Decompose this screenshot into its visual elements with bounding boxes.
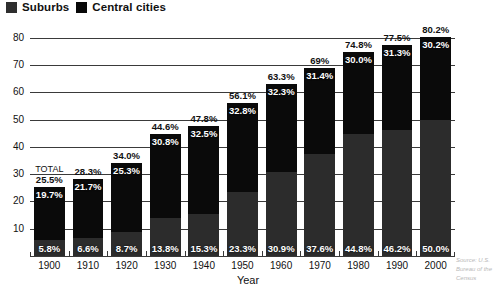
bar-segment-suburbs[interactable]: 37.6% xyxy=(304,154,335,256)
bar-segment-central-cities[interactable]: 21.7% xyxy=(73,179,104,238)
bar-total-label: 63.3% xyxy=(260,72,303,82)
bar-total-value: 25.5% xyxy=(36,174,63,185)
x-axis-tick xyxy=(223,251,224,257)
stacked-bar[interactable]: 23.3%32.8%56.1% xyxy=(227,103,258,256)
bar-segment-central-cities[interactable]: 30.2% xyxy=(420,37,451,119)
x-axis-tick-label: 1910 xyxy=(69,260,108,271)
bar-group[interactable]: 30.9%32.3%63.3% xyxy=(266,0,297,256)
chart-root: Suburbs Central cities 1020304050607080 … xyxy=(0,0,496,289)
bar-segment-suburbs[interactable]: 46.2% xyxy=(382,130,413,256)
bar-segment-value-label: 32.8% xyxy=(229,106,256,116)
y-axis-tick-label: 40 xyxy=(0,141,24,152)
bar-segment-central-cities[interactable]: 32.5% xyxy=(188,126,219,215)
x-axis-tick-label: 1970 xyxy=(300,260,339,271)
stacked-bar[interactable]: 8.7%25.3%34.0% xyxy=(111,163,142,256)
x-axis-tick-label: 1900 xyxy=(30,260,69,271)
bar-group[interactable]: 50.0%30.2%80.2% xyxy=(420,0,451,256)
y-axis-tick-label: 60 xyxy=(0,86,24,97)
x-axis-line xyxy=(30,256,455,257)
stacked-bar[interactable]: 46.2%31.3%77.5% xyxy=(382,45,413,256)
x-axis-tick-label: 1920 xyxy=(107,260,146,271)
x-axis-tick-label: 2000 xyxy=(416,260,455,271)
bar-total-value: 63.3% xyxy=(268,71,295,82)
bar-segment-central-cities[interactable]: 32.3% xyxy=(266,84,297,172)
bar-segment-value-label: 8.7% xyxy=(116,244,138,254)
bar-total-value: 47.8% xyxy=(190,113,217,124)
y-axis-tick-label: 30 xyxy=(0,168,24,179)
y-axis-tick-label: 20 xyxy=(0,195,24,206)
bar-segment-suburbs[interactable]: 15.3% xyxy=(188,214,219,256)
bar-group[interactable]: 46.2%31.3%77.5% xyxy=(382,0,413,256)
bar-total-value: 44.6% xyxy=(152,121,179,132)
x-axis-tick xyxy=(339,251,340,257)
bar-segment-central-cities[interactable]: 32.8% xyxy=(227,103,258,192)
bar-segment-value-label: 19.7% xyxy=(36,190,63,200)
bar-group[interactable]: 5.8%19.7%TOTAL25.5% xyxy=(34,0,65,256)
bar-total-value: 56.1% xyxy=(229,90,256,101)
bar-total-value: 28.3% xyxy=(74,166,101,177)
bar-segment-value-label: 15.3% xyxy=(190,244,217,254)
bar-segment-central-cities[interactable]: 25.3% xyxy=(111,163,142,232)
bar-group[interactable]: 6.6%21.7%28.3% xyxy=(73,0,104,256)
bar-total-label: 56.1% xyxy=(221,91,264,101)
bar-segment-central-cities[interactable]: 30.0% xyxy=(343,52,374,134)
x-axis-tick-label: 1950 xyxy=(223,260,262,271)
x-axis-tick-label: 1940 xyxy=(185,260,224,271)
bar-total-value: 74.8% xyxy=(345,39,372,50)
bar-total-label: 28.3% xyxy=(67,167,110,177)
stacked-bar[interactable]: 5.8%19.7%TOTAL25.5% xyxy=(34,187,65,257)
bar-total-value: 77.5% xyxy=(384,32,411,43)
bar-segment-central-cities[interactable]: 19.7% xyxy=(34,187,65,241)
bar-series-container: 5.8%19.7%TOTAL25.5%6.6%21.7%28.3%8.7%25.… xyxy=(30,0,455,256)
stacked-bar[interactable]: 6.6%21.7%28.3% xyxy=(73,179,104,256)
stacked-bar[interactable]: 37.6%31.4%69% xyxy=(304,68,335,256)
bar-segment-suburbs[interactable]: 8.7% xyxy=(111,232,142,256)
bar-segment-value-label: 23.3% xyxy=(229,244,256,254)
bar-segment-suburbs[interactable]: 13.8% xyxy=(150,218,181,256)
bar-total-label: 44.6% xyxy=(144,122,187,132)
bar-segment-central-cities[interactable]: 31.3% xyxy=(382,45,413,130)
x-axis-tick xyxy=(146,251,147,257)
bar-segment-value-label: 46.2% xyxy=(384,244,411,254)
x-axis-left-cap xyxy=(30,252,31,257)
bar-group[interactable]: 23.3%32.8%56.1% xyxy=(227,0,258,256)
x-axis-tick-label: 1980 xyxy=(339,260,378,271)
bar-segment-value-label: 31.3% xyxy=(384,48,411,58)
bar-group[interactable]: 15.3%32.5%47.8% xyxy=(188,0,219,256)
bar-segment-suburbs[interactable]: 44.8% xyxy=(343,134,374,256)
bar-group[interactable]: 8.7%25.3%34.0% xyxy=(111,0,142,256)
y-axis-tick-label: 10 xyxy=(0,223,24,234)
x-axis-tick xyxy=(416,251,417,257)
x-axis-tick-label: 1960 xyxy=(262,260,301,271)
bar-segment-suburbs[interactable]: 50.0% xyxy=(420,120,451,256)
x-axis-title: Year xyxy=(0,274,496,286)
bar-segment-value-label: 30.8% xyxy=(152,137,179,147)
bar-segment-value-label: 32.5% xyxy=(190,129,217,139)
bar-segment-value-label: 21.7% xyxy=(74,182,101,192)
bar-group[interactable]: 37.6%31.4%69% xyxy=(304,0,335,256)
stacked-bar[interactable]: 44.8%30.0%74.8% xyxy=(343,52,374,256)
x-axis-tick xyxy=(185,251,186,257)
bar-segment-suburbs[interactable]: 23.3% xyxy=(227,192,258,256)
bar-segment-value-label: 5.8% xyxy=(38,244,60,254)
bar-segment-suburbs[interactable]: 6.6% xyxy=(73,238,104,256)
stacked-bar[interactable]: 30.9%32.3%63.3% xyxy=(266,84,297,256)
bar-total-label: 80.2% xyxy=(414,25,457,35)
bar-segment-suburbs[interactable]: 5.8% xyxy=(34,240,65,256)
bar-segment-value-label: 32.3% xyxy=(268,87,295,97)
bar-group[interactable]: 13.8%30.8%44.6% xyxy=(150,0,181,256)
plot-area: 1020304050607080 5.8%19.7%TOTAL25.5%6.6%… xyxy=(0,0,496,289)
bar-segment-central-cities[interactable]: 31.4% xyxy=(304,68,335,154)
bar-segment-value-label: 30.9% xyxy=(268,244,295,254)
bar-total-value: 69% xyxy=(310,55,329,66)
bar-total-label: 74.8% xyxy=(337,40,380,50)
bar-segment-suburbs[interactable]: 30.9% xyxy=(266,172,297,256)
stacked-bar[interactable]: 13.8%30.8%44.6% xyxy=(150,134,181,256)
bar-segment-value-label: 44.8% xyxy=(345,244,372,254)
stacked-bar[interactable]: 50.0%30.2%80.2% xyxy=(420,37,451,256)
x-axis-tick-label: 1930 xyxy=(146,260,185,271)
bar-segment-value-label: 30.2% xyxy=(422,40,449,50)
bar-segment-central-cities[interactable]: 30.8% xyxy=(150,134,181,218)
stacked-bar[interactable]: 15.3%32.5%47.8% xyxy=(188,126,219,256)
bar-group[interactable]: 44.8%30.0%74.8% xyxy=(343,0,374,256)
